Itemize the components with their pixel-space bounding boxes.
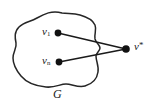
node-label-vn-subscript: n (47, 59, 50, 66)
node-label-vstar: v* (134, 41, 143, 52)
node-label-vn: vn (42, 55, 50, 67)
graph-diagram-svg (0, 0, 157, 107)
node-label-v1: v1 (42, 26, 50, 38)
node-v1-dot (55, 30, 62, 37)
region-g-label: G (53, 88, 62, 100)
figure-container: v1 vn v* G (0, 0, 157, 107)
edge-vn-to-vstar (59, 49, 126, 62)
edge-v1-to-vstar (58, 33, 126, 49)
region-g-outline (13, 12, 100, 87)
node-label-v1-subscript: 1 (47, 30, 50, 37)
node-vstar-dot (122, 45, 130, 53)
node-label-vstar-superscript: * (139, 40, 143, 50)
node-vn-dot (56, 59, 63, 66)
